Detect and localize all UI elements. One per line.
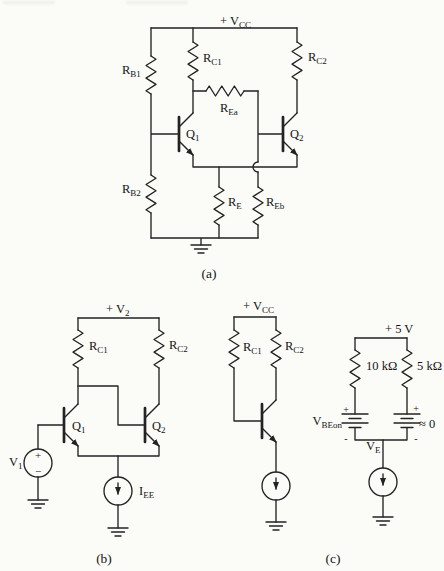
vbeon-plus-sign: + xyxy=(343,404,349,415)
emitter-rail-a xyxy=(193,155,297,167)
ground-rail-a xyxy=(151,238,258,245)
label-ve: VE xyxy=(366,439,381,455)
label-rc1-a: RC1 xyxy=(203,51,222,67)
label-rea: REa xyxy=(220,101,238,117)
ground-symbol-a xyxy=(191,245,211,253)
ground-symbol-c-right xyxy=(373,517,393,525)
resistor-rc1-a xyxy=(188,42,198,80)
resistor-rc2-b xyxy=(154,330,164,368)
v1-plus-sign: + xyxy=(35,449,41,461)
label-vcc-a: + VCC xyxy=(220,14,251,30)
label-q1-b: Q1 xyxy=(72,419,86,435)
label-approx-zero: ≈ 0 xyxy=(419,417,435,431)
caption-a: (a) xyxy=(202,266,217,281)
label-vbeon: VBEon xyxy=(312,414,342,430)
label-q2-b: Q2 xyxy=(152,419,166,435)
label-v2: + V2 xyxy=(106,302,129,318)
circuit-a xyxy=(146,28,302,253)
label-reb: REb xyxy=(266,195,285,211)
current-source-iee xyxy=(104,477,132,505)
label-q2-a: Q2 xyxy=(290,127,304,143)
label-v1: V1 xyxy=(9,455,23,471)
ve-node-rail xyxy=(355,428,407,440)
label-rc2-c: RC2 xyxy=(285,339,304,355)
resistor-rc2-c xyxy=(271,330,281,368)
label-5k: 5 kΩ xyxy=(417,359,442,373)
label-rc1-c: RC1 xyxy=(243,340,262,356)
bat2-minus-sign: - xyxy=(414,433,417,444)
label-iee: IEE xyxy=(139,484,155,500)
scanned-book-page: + VCC RB1 RC1 RC2 REa Q1 Q2 RB2 RE REb (… xyxy=(0,0,444,571)
label-q1-a: Q1 xyxy=(186,127,200,143)
resistor-rb2 xyxy=(146,175,156,213)
current-source-tail xyxy=(369,468,397,496)
resistor-rc1-b xyxy=(73,330,83,368)
current-source-c xyxy=(262,472,290,500)
resistor-10k xyxy=(350,350,360,388)
ground-symbol-iee xyxy=(108,528,128,536)
resistor-5k xyxy=(402,350,412,388)
resistor-re xyxy=(214,187,224,225)
caption-b: (b) xyxy=(96,551,112,566)
label-10k: 10 kΩ xyxy=(366,359,397,373)
label-rb2: RB2 xyxy=(122,182,141,198)
label-rc2-b: RC2 xyxy=(169,338,188,354)
label-rc2-a: RC2 xyxy=(308,50,327,66)
resistor-reb xyxy=(253,187,263,225)
collector-to-base-coupling-wire xyxy=(78,386,145,425)
resistor-rc1-c xyxy=(229,330,239,368)
label-vcc-c: + VCC xyxy=(243,299,274,315)
label-rc1-b: RC1 xyxy=(89,339,108,355)
circuit-figure: + VCC RB1 RC1 RC2 REa Q1 Q2 RB2 RE REb (… xyxy=(0,0,444,571)
resistor-rc2-a xyxy=(292,42,302,80)
resistor-rea xyxy=(206,86,244,96)
transistor-q-c xyxy=(262,400,276,442)
v1-minus-sign: − xyxy=(35,465,41,477)
emitter-rail-b xyxy=(78,446,159,456)
vbeon-minus-sign: - xyxy=(344,433,347,444)
battery-vbeon xyxy=(342,414,368,428)
resistor-rb1 xyxy=(146,56,156,94)
ground-symbol-v1 xyxy=(28,500,48,508)
ground-symbol-c-left xyxy=(266,522,286,530)
caption-c: (c) xyxy=(326,551,341,566)
label-5v-supply: + 5 V xyxy=(385,322,413,336)
label-re: RE xyxy=(228,195,242,211)
bat2-plus-sign: + xyxy=(413,403,419,414)
label-rb1: RB1 xyxy=(122,63,141,79)
battery-approx-zero xyxy=(394,414,420,428)
